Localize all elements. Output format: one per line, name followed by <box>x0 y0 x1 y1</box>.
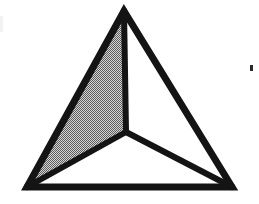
vertex-bottom-right <box>229 184 235 190</box>
vertex-interior <box>123 129 129 135</box>
vertex-bottom-left <box>24 184 30 190</box>
scan-mark-left-edge <box>0 16 3 32</box>
tetrahedron-drawing <box>0 0 259 204</box>
scan-speck-right <box>250 65 253 71</box>
tetrahedron-figure <box>0 0 259 204</box>
vertex-apex <box>121 8 127 14</box>
edge-apex-to-interior <box>124 11 126 132</box>
